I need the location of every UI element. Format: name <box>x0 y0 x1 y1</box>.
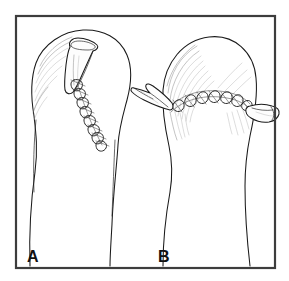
panel-b-digit-outline <box>163 37 257 266</box>
figure-container: A <box>0 0 289 281</box>
panel-label-b: B <box>158 248 170 265</box>
surgical-illustration: A <box>0 0 289 281</box>
panel-label-a: A <box>27 248 39 265</box>
